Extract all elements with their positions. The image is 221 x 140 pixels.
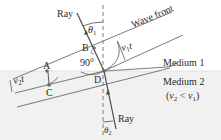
theta1-arc bbox=[83, 22, 103, 26]
v2t-dimension bbox=[48, 72, 49, 84]
v2t-left-dimension bbox=[10, 80, 12, 92]
point-a-label: A bbox=[43, 60, 51, 71]
refracted-ray-arrow bbox=[106, 89, 110, 95]
point-c-label: C bbox=[46, 87, 53, 98]
velocity-condition-label: (v2 < v1) bbox=[166, 90, 199, 103]
theta1-label: θ1 bbox=[88, 24, 97, 37]
theta2-arc bbox=[103, 121, 113, 122]
v2t-label: v2t bbox=[12, 73, 25, 88]
point-b-label: B bbox=[82, 42, 89, 53]
point-d-dot bbox=[102, 69, 106, 73]
refraction-diagram: Ray Wave front θ1 B 90° v1t Medium 1 A v… bbox=[0, 0, 221, 140]
right-angle-label: 90° bbox=[80, 57, 94, 68]
point-b-dot bbox=[92, 46, 96, 50]
medium1-label: Medium 1 bbox=[163, 57, 204, 68]
v1t-label: v1t bbox=[120, 40, 133, 55]
refracted-ray bbox=[104, 71, 116, 129]
wave-front-label: Wave front bbox=[129, 2, 174, 30]
ray-refracted-label: Ray bbox=[118, 113, 134, 124]
diagram-svg: Ray Wave front θ1 B 90° v1t Medium 1 A v… bbox=[0, 0, 221, 140]
refracted-wave-front-1 bbox=[15, 71, 104, 93]
medium2-label: Medium 2 bbox=[163, 76, 204, 87]
v1t-arc bbox=[104, 41, 119, 71]
point-d-label: D bbox=[94, 74, 101, 85]
ray-incident-label: Ray bbox=[57, 8, 73, 19]
right-angle-marker bbox=[91, 50, 94, 54]
theta2-label: θ2 bbox=[104, 125, 111, 136]
